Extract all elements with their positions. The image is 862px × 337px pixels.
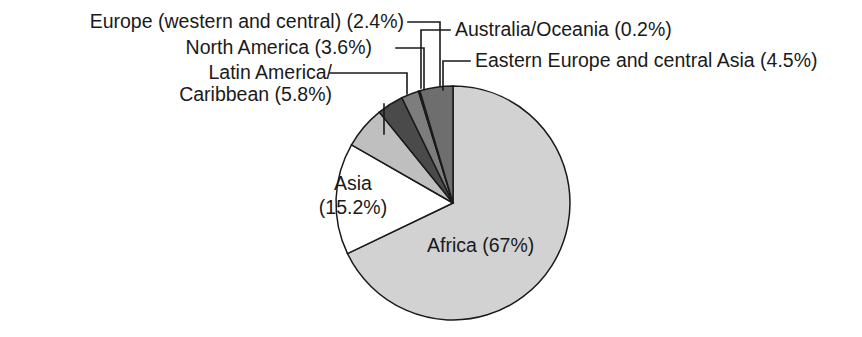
pie-chart-figure: Europe (western and central) (2.4%) Nort…: [0, 0, 862, 337]
leader-line-latin-america: [330, 73, 407, 94]
callout-label-europe: Europe (western and central) (2.4%): [90, 10, 404, 32]
pie-chart-canvas: Europe (western and central) (2.4%) Nort…: [0, 0, 862, 337]
callout-label-north-america: North America (3.6%): [186, 36, 372, 58]
slice-label-asia-line2: (15.2%): [319, 196, 387, 218]
callout-label-eastern-europe: Eastern Europe and central Asia (4.5%): [475, 49, 818, 71]
callout-label-latin-america-line1: Latin America/: [208, 61, 332, 83]
callout-label-australia-oceania: Australia/Oceania (0.2%): [455, 18, 672, 40]
leader-line-australia-oceania: [421, 30, 450, 88]
callout-label-latin-america-line2: Caribbean (5.8%): [179, 83, 332, 105]
slice-label-asia-line1: Asia: [334, 172, 372, 194]
leader-line-north-america: [396, 48, 424, 89]
slice-label-africa: Africa (67%): [427, 234, 534, 256]
